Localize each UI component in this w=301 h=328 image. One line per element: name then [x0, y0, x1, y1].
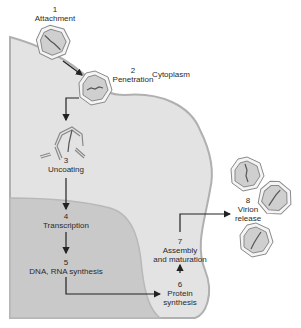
step-5-text: DNA, RNA synthesis [29, 267, 102, 276]
step-3-label: 3 Uncoating [48, 156, 84, 174]
released-virion-icon [231, 157, 264, 191]
step-8-text-line1: Virion [235, 205, 261, 214]
viral-replication-diagram [0, 0, 301, 328]
step-3-number: 3 [48, 156, 84, 165]
step-6-text-line1: Protein [163, 289, 196, 298]
released-virion-icon [240, 223, 273, 257]
step-6-number: 6 [163, 280, 196, 289]
step-7-label: 7 Assembly and maturation [153, 237, 206, 264]
step-1-text: Attachment [35, 14, 75, 23]
step-2-text: Penetration [113, 75, 154, 84]
step-1-label: 1 Attachment [35, 5, 75, 23]
step-6-label: 6 Protein synthesis [163, 280, 196, 307]
step-4-text: Transcription [43, 221, 89, 230]
step-5-number: 5 [29, 258, 102, 267]
step-7-text-line2: and maturation [153, 255, 206, 264]
step-2-number: 2 [113, 66, 154, 75]
step-5-label: 5 DNA, RNA synthesis [29, 258, 102, 276]
cytoplasm-label: Cytoplasm [152, 70, 190, 79]
step-8-label: 8 Virion release [235, 196, 261, 223]
step-3-text: Uncoating [48, 165, 84, 174]
released-virion-icon [255, 177, 296, 218]
step-8-text-line2: release [235, 214, 261, 223]
step-1-number: 1 [35, 5, 75, 14]
step-7-number: 7 [153, 237, 206, 246]
step-7-text-line1: Assembly [153, 246, 206, 255]
step-6-text-line2: synthesis [163, 298, 196, 307]
step-4-number: 4 [43, 212, 89, 221]
step-4-label: 4 Transcription [43, 212, 89, 230]
step-8-number: 8 [235, 196, 261, 205]
step-2-label: 2 Penetration [113, 66, 154, 84]
